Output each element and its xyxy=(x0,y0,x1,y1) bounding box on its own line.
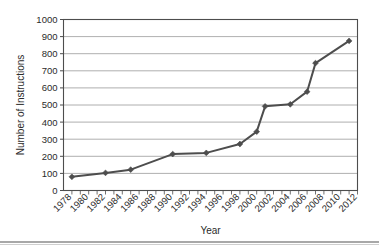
y-axis-title: Number of Instructions xyxy=(15,55,26,156)
data-point-1994 xyxy=(203,150,209,156)
page-divider-rule-secondary xyxy=(0,244,379,245)
y-tick-label-100: 100 xyxy=(42,168,58,179)
x-axis-tick-labels: 1978198019821984198619881990199219941996… xyxy=(51,191,359,214)
y-tick-label-200: 200 xyxy=(42,151,58,162)
data-point-1985 xyxy=(128,167,134,173)
y-tick-label-900: 900 xyxy=(42,31,58,42)
data-point-2001 xyxy=(262,103,268,109)
y-tick-label-500: 500 xyxy=(42,99,58,110)
y-tick-label-0: 0 xyxy=(52,185,57,196)
data-point-1978 xyxy=(69,174,75,180)
data-series-markers xyxy=(69,38,352,180)
y-tick-label-400: 400 xyxy=(42,117,58,128)
y-tick-label-1000: 1000 xyxy=(36,14,57,25)
page-divider-rule xyxy=(0,241,379,243)
x-axis-title: Year xyxy=(200,225,221,236)
y-tick-label-600: 600 xyxy=(42,82,58,93)
y-tick-label-700: 700 xyxy=(42,65,58,76)
line-chart: 01002003004005006007008009001000 1978198… xyxy=(0,0,379,248)
y-axis-tick-labels: 01002003004005006007008009001000 xyxy=(36,14,57,196)
y-tick-label-800: 800 xyxy=(42,48,58,59)
chart-figure: 01002003004005006007008009001000 1978198… xyxy=(0,0,379,248)
y-tick-label-300: 300 xyxy=(42,134,58,145)
x-tick-label-2012: 2012 xyxy=(336,191,359,214)
data-point-1982 xyxy=(103,170,109,176)
gridlines xyxy=(64,20,358,174)
